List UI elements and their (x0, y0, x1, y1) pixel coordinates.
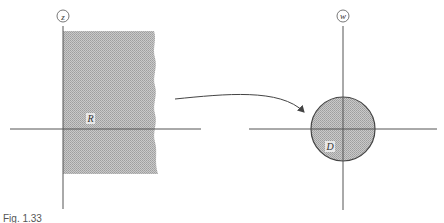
region-r-label: R (86, 113, 93, 124)
figure-caption: Fig. 1.33 (3, 213, 42, 223)
z-label: z (60, 12, 65, 22)
z-plane: z R (10, 10, 201, 209)
w-plane: w D (249, 10, 437, 210)
mapping-arrow (175, 94, 304, 112)
disk-d-label: D (325, 141, 334, 152)
region-r (63, 31, 158, 174)
w-label: w (340, 11, 346, 21)
figure-canvas: z R w D Fig. 1.33 (0, 0, 444, 223)
